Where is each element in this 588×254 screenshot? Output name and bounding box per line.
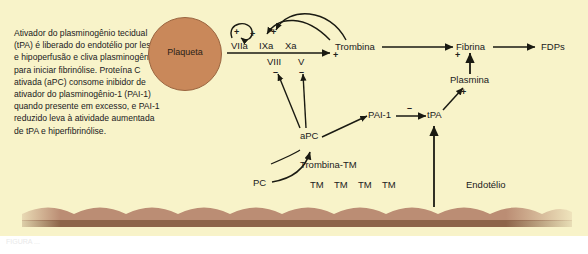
sign-viii-minus: – <box>273 68 278 77</box>
intro-paragraph: Ativador do plasminogênio tecidual (tPA)… <box>14 27 166 137</box>
sign-loop-right: + <box>250 30 255 39</box>
arrow-apc-to-pai1 <box>322 116 367 137</box>
sign-fibrin-plus: + <box>455 51 460 60</box>
node-fdps: FDPs <box>541 42 565 52</box>
sign-ixa-plus: + <box>271 28 276 37</box>
node-pai1: PAI-1 <box>368 110 391 120</box>
sign-pai1-minus: – <box>407 104 412 113</box>
arrow-thrombin-feedback-ixa <box>267 20 330 40</box>
sign-thrombin-plus: + <box>333 51 338 60</box>
caption-ghost-text: FIGURA ... <box>6 238 582 244</box>
node-viii: VIII <box>267 57 281 67</box>
arrow-thrombin-feedback-xa <box>276 14 346 40</box>
leader-thrombin-tm <box>271 150 300 164</box>
endothelium-membrane <box>22 208 572 228</box>
node-tm-4: TM <box>382 180 396 190</box>
sign-plasmin-plus: + <box>461 88 466 97</box>
arrow-apc-inhibits-v <box>303 74 306 128</box>
node-tm-3: TM <box>358 180 372 190</box>
node-xa: Xa <box>285 41 297 51</box>
node-plasmin: Plasmina <box>450 75 489 85</box>
node-v: V <box>298 57 304 67</box>
arrow-apc-inhibits-viii <box>278 74 300 128</box>
caption-strip: FIGURA ... <box>0 236 588 254</box>
node-tm-2: TM <box>334 180 348 190</box>
arrow-tpa-activates-plasmin <box>443 88 463 110</box>
diagram-canvas: Ativador do plasminogênio tecidual (tPA)… <box>0 0 588 236</box>
platelet-label: Plaqueta <box>149 47 221 57</box>
node-pc: PC <box>253 178 266 188</box>
node-thrombin-tm: Trombina-TM <box>300 160 357 170</box>
node-thrombin: Trombina <box>335 42 375 52</box>
node-endothelium: Endotélio <box>466 180 506 190</box>
node-ixa: IXa <box>259 41 273 51</box>
figure-container: Ativador do plasminogênio tecidual (tPA)… <box>0 0 588 254</box>
node-viia: VIIa <box>231 41 248 51</box>
node-apc: aPC <box>300 131 318 141</box>
platelet-circle: Plaqueta <box>148 17 222 91</box>
node-fibrin: Fibrina <box>456 42 485 52</box>
sign-loop-left: + <box>234 28 239 37</box>
node-tm-1: TM <box>310 180 324 190</box>
sign-v-minus: – <box>299 68 304 77</box>
node-tpa: tPA <box>427 110 442 120</box>
